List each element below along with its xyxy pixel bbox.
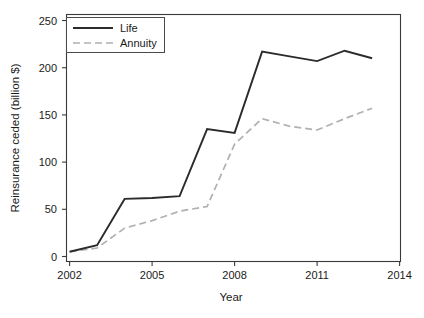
y-tick-label-200: 200 <box>39 62 57 74</box>
legend-label-life: Life <box>120 22 138 34</box>
y-axis-title: Reinsurance ceded (billion $) <box>9 63 21 212</box>
y-axis-ticks <box>62 21 67 257</box>
x-axis-tick-labels: 2002 2005 2008 2011 2014 <box>57 269 411 281</box>
x-tick-label-2014: 2014 <box>387 269 411 281</box>
line-chart-figure: 0 50 100 150 200 250 2002 2005 2008 2011… <box>0 0 424 318</box>
chart-container: 0 50 100 150 200 250 2002 2005 2008 2011… <box>0 0 424 318</box>
x-axis-title: Year <box>219 291 242 303</box>
x-tick-label-2002: 2002 <box>57 269 81 281</box>
series-line-annuity <box>70 108 373 251</box>
y-tick-label-0: 0 <box>51 251 57 263</box>
y-tick-label-250: 250 <box>39 15 57 27</box>
y-tick-label-100: 100 <box>39 156 57 168</box>
y-tick-label-50: 50 <box>45 203 57 215</box>
series-line-life <box>70 51 373 252</box>
x-tick-label-2011: 2011 <box>305 269 329 281</box>
x-tick-label-2005: 2005 <box>140 269 164 281</box>
y-axis-tick-labels: 0 50 100 150 200 250 <box>39 15 57 263</box>
chart-legend: Life Annuity <box>67 18 165 53</box>
legend-label-annuity: Annuity <box>120 37 157 49</box>
y-tick-label-150: 150 <box>39 109 57 121</box>
x-axis-ticks <box>70 262 400 267</box>
x-tick-label-2008: 2008 <box>222 269 246 281</box>
